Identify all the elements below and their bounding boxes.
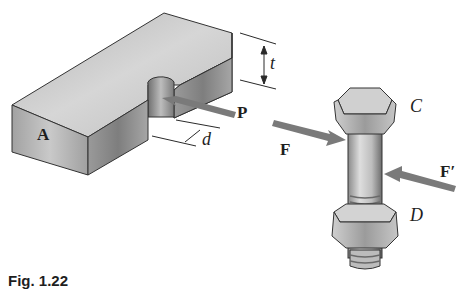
thickness-label: t bbox=[270, 54, 275, 72]
nut-d-label: D bbox=[410, 206, 423, 224]
force-f-prime-label: F′ bbox=[440, 163, 455, 180]
force-f-label: F bbox=[280, 141, 290, 158]
force-p-label: P bbox=[237, 104, 247, 121]
bolt bbox=[332, 88, 398, 269]
diameter-label: d bbox=[202, 130, 211, 148]
block-a-label: A bbox=[37, 126, 49, 143]
figure-caption: Fig. 1.22 bbox=[8, 272, 68, 289]
block-a bbox=[12, 13, 232, 175]
bolt-head-c-label: C bbox=[410, 97, 422, 115]
